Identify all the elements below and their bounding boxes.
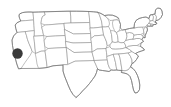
us-map-svg <box>0 0 171 107</box>
state-new-mexico <box>45 48 68 68</box>
region-northeast <box>126 8 163 36</box>
state-wyoming <box>42 24 65 37</box>
state-north-dakota <box>71 11 90 23</box>
us-map-container <box>0 0 171 107</box>
region-west <box>12 11 71 69</box>
location-marker[interactable] <box>12 48 22 58</box>
state-colorado <box>44 36 66 49</box>
state-texas <box>63 61 98 98</box>
state-oregon <box>15 20 34 33</box>
state-florida <box>122 67 140 93</box>
state-arkansas <box>92 49 107 61</box>
state-maryland <box>133 35 144 40</box>
state-montana <box>41 11 71 25</box>
state-utah <box>34 36 45 54</box>
